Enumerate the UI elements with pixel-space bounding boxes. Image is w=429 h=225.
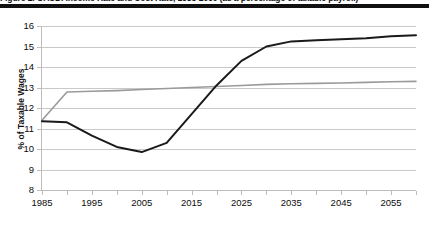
y-tick-label: 15 [0, 42, 34, 52]
x-tick-mark [416, 191, 417, 195]
series-line-cost-rate [42, 35, 416, 152]
x-tick-mark [92, 191, 93, 195]
figure-caption: Figure 2. OASDI Income Rate and Cost Rat… [0, 0, 429, 3]
chart-figure: Figure 2. OASDI Income Rate and Cost Rat… [0, 0, 429, 225]
y-tick-label: 11 [0, 124, 34, 134]
x-tick-mark [241, 191, 242, 195]
x-tick-mark [266, 191, 267, 195]
y-tick-label: 9 [0, 165, 34, 175]
x-tick-label: 1985 [22, 197, 62, 208]
x-axis-line [41, 190, 416, 191]
x-tick-label: 1995 [72, 197, 112, 208]
x-tick-mark [217, 191, 218, 195]
x-tick-mark [67, 191, 68, 195]
x-tick-mark [391, 191, 392, 195]
y-tick-label: 13 [0, 83, 34, 93]
figure-caption-text: Figure 2. OASDI Income Rate and Cost Rat… [0, 0, 429, 3]
series-line-income-rate [42, 81, 416, 120]
y-tick-label: 12 [0, 103, 34, 113]
series-lines [42, 26, 416, 190]
x-tick-mark [291, 191, 292, 195]
x-tick-label: 2045 [321, 197, 361, 208]
x-tick-label: 2035 [271, 197, 311, 208]
x-tick-mark [366, 191, 367, 195]
x-tick-mark [42, 191, 43, 195]
header-rule [0, 4, 429, 8]
y-tick-label: 16 [0, 21, 34, 31]
x-tick-label: 2025 [221, 197, 261, 208]
x-tick-mark [117, 191, 118, 195]
x-tick-mark [341, 191, 342, 195]
x-tick-label: 2055 [371, 197, 411, 208]
x-tick-mark [316, 191, 317, 195]
y-tick-label: 10 [0, 144, 34, 154]
plot-area [42, 26, 416, 190]
y-tick-label: 8 [0, 185, 34, 195]
x-tick-mark [192, 191, 193, 195]
x-tick-label: 2015 [172, 197, 212, 208]
x-tick-label: 2005 [122, 197, 162, 208]
y-tick-label: 14 [0, 62, 34, 72]
x-tick-mark [142, 191, 143, 195]
x-tick-mark [167, 191, 168, 195]
